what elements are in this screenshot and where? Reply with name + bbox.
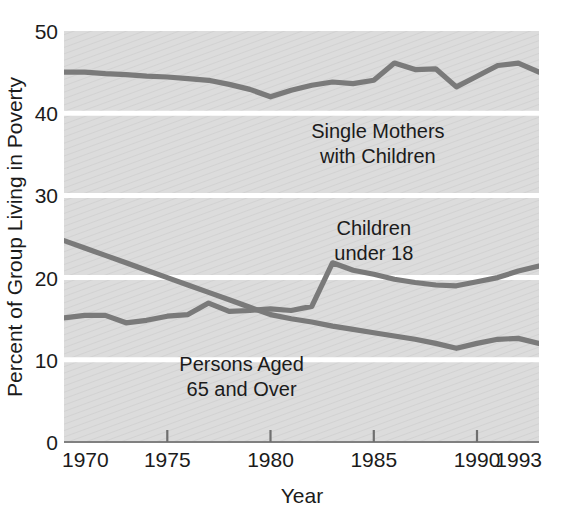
y-tick-label-30: 30 — [35, 184, 58, 207]
series-label-1-line-0: Children — [337, 217, 411, 239]
series-label-0-line-1: with Children — [319, 145, 436, 167]
y-tick-label-10: 10 — [35, 349, 58, 372]
y-axis-title: Percent of Group Living in Poverty — [3, 77, 26, 397]
x-tick-label-1985: 1985 — [350, 448, 397, 471]
series-label-2-line-0: Persons Aged — [179, 353, 304, 375]
x-tick-label-1993: 1993 — [495, 448, 542, 471]
x-tick-label-1980: 1980 — [247, 448, 294, 471]
series-label-0-line-0: Single Mothers — [311, 120, 444, 142]
poverty-line-chart: 01020304050 197019751980198519901993 Sin… — [0, 0, 580, 518]
chart-svg: 01020304050 197019751980198519901993 Sin… — [0, 0, 580, 518]
series-label-1-line-1: under 18 — [334, 242, 413, 264]
x-axis-title: Year — [281, 484, 323, 507]
y-axis-tick-labels: 01020304050 — [35, 20, 58, 454]
x-tick-label-1975: 1975 — [144, 448, 191, 471]
x-tick-label-1990: 1990 — [454, 448, 501, 471]
y-tick-label-0: 0 — [46, 431, 58, 454]
plot-area-background — [64, 31, 539, 442]
series-label-2-line-1: 65 and Over — [187, 378, 297, 400]
x-axis-tick-labels: 197019751980198519901993 — [62, 448, 542, 471]
y-tick-label-50: 50 — [35, 20, 58, 43]
y-tick-label-40: 40 — [35, 102, 58, 125]
y-tick-label-20: 20 — [35, 267, 58, 290]
x-tick-label-1970: 1970 — [62, 448, 109, 471]
